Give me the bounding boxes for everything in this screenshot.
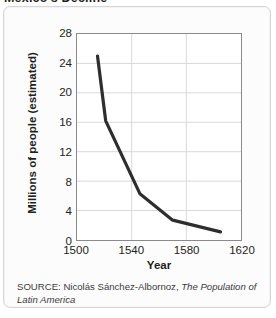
x-tick-1500: 1500 xyxy=(53,244,99,256)
source-note: SOURCE: Nicolás Sánchez-Albornoz, The Po… xyxy=(17,281,259,306)
page-title: Mexico's Decline xyxy=(4,0,107,5)
figure-panel: Millions of people (estimated) 048121620… xyxy=(3,6,271,308)
x-tick-1580: 1580 xyxy=(164,244,210,256)
x-tick-1540: 1540 xyxy=(108,244,154,256)
plot-area xyxy=(76,33,242,241)
x-tick-1620: 1620 xyxy=(219,244,265,256)
y-tick-28: 28 xyxy=(32,27,72,39)
line-chart-svg xyxy=(77,34,241,240)
y-tick-20: 20 xyxy=(32,86,72,98)
x-axis-title: Year xyxy=(76,259,242,271)
y-tick-8: 8 xyxy=(32,176,72,188)
y-tick-4: 4 xyxy=(32,205,72,217)
y-tick-12: 12 xyxy=(32,146,72,158)
population-decline-line xyxy=(98,56,221,232)
chart-region: Millions of people (estimated) 048121620… xyxy=(4,7,272,257)
y-tick-24: 24 xyxy=(32,57,72,69)
source-prefix: SOURCE: Nicolás Sánchez-Albornoz, xyxy=(17,281,179,292)
y-tick-16: 16 xyxy=(32,116,72,128)
